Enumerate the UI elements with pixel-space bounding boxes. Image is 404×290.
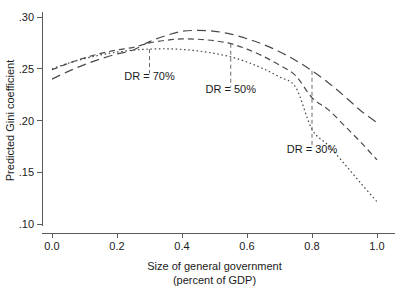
x-tick-label-3: 0.6 (239, 240, 254, 252)
y-tick-label-0: .10 (19, 218, 34, 230)
y-tick-label-1: .15 (19, 166, 34, 178)
chart-canvas: DR = 70%DR = 50%DR = 30% .10.15.20.25.30… (0, 0, 404, 290)
curve-dr-50 (52, 39, 377, 160)
x-axis-title-line2: (percent of GDP) (173, 274, 256, 286)
y-tick-label-4: .30 (19, 11, 34, 23)
annotations-layer: DR = 70%DR = 50%DR = 30% (124, 44, 337, 155)
curve-dr-30 (52, 49, 377, 202)
chart-figure: DR = 70%DR = 50%DR = 30% .10.15.20.25.30… (0, 0, 404, 290)
annotation-label-0: DR = 70% (124, 70, 175, 82)
annotation-label-1: DR = 50% (206, 83, 257, 95)
x-tick-label-5: 1.0 (369, 240, 384, 252)
curve-dr-70 (52, 30, 377, 122)
y-axis-title: Predicted Gini coefficient (4, 60, 16, 181)
curves-layer (52, 30, 377, 201)
y-tick-label-2: .20 (19, 115, 34, 127)
x-tick-label-1: 0.2 (109, 240, 124, 252)
x-axis-title: Size of general government (147, 260, 282, 272)
axes-layer (37, 12, 395, 238)
annotation-label-2: DR = 30% (287, 143, 338, 155)
y-tick-label-3: .25 (19, 63, 34, 75)
x-tick-label-0: 0.0 (44, 240, 59, 252)
x-tick-label-2: 0.4 (174, 240, 189, 252)
x-tick-label-4: 0.8 (304, 240, 319, 252)
